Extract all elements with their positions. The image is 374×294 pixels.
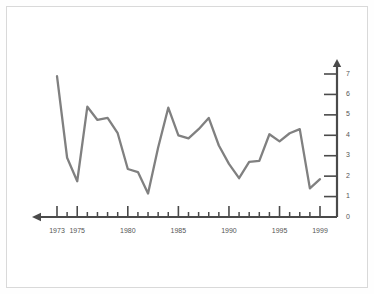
y-tick-label-7: 7	[346, 70, 350, 77]
y-axis-arrow-up	[333, 59, 341, 67]
y-tick-label-2: 2	[346, 172, 350, 179]
y-tick-label-0: 0	[346, 213, 350, 220]
tick-marks-layer	[57, 74, 337, 216]
y-tick-label-4: 4	[346, 131, 350, 138]
chart-screenshot: 012345671973197519801985199019951999	[0, 0, 374, 294]
x-tick-label-1985: 1985	[164, 227, 192, 234]
y-tick-label-6: 6	[346, 90, 350, 97]
x-tick-label-1980: 1980	[114, 227, 142, 234]
y-tick-label-5: 5	[346, 110, 350, 117]
x-tick-label-1999: 1999	[306, 227, 334, 234]
data-line-1	[57, 76, 320, 193]
y-tick-label-3: 3	[346, 151, 350, 158]
y-tick-label-1: 1	[346, 192, 350, 199]
axes-layer	[32, 59, 341, 221]
line-chart-plot	[0, 0, 374, 294]
x-axis-arrow-left	[32, 213, 41, 221]
x-tick-label-1990: 1990	[215, 227, 243, 234]
x-tick-label-1975: 1975	[63, 227, 91, 234]
x-tick-label-1995: 1995	[266, 227, 294, 234]
data-series-layer	[57, 76, 320, 193]
